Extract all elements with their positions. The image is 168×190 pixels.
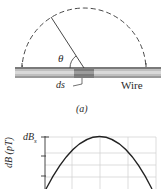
wire-label: Wire xyxy=(121,80,143,91)
ds-label: ds xyxy=(56,80,65,90)
y-axis-label: dB (pT) xyxy=(4,137,14,168)
ds-leader-line xyxy=(73,78,82,86)
angle-arc xyxy=(70,56,76,68)
figure-canvas xyxy=(0,0,168,189)
y-max-tick-label: dBs xyxy=(23,132,37,145)
y-axis xyxy=(41,136,49,189)
radius-line xyxy=(51,17,84,68)
panel-a-caption: (a) xyxy=(76,104,88,114)
db-curve xyxy=(46,137,152,190)
theta-label: θ xyxy=(58,53,63,64)
semicircle-path xyxy=(22,8,146,70)
current-element-ds xyxy=(74,67,94,78)
